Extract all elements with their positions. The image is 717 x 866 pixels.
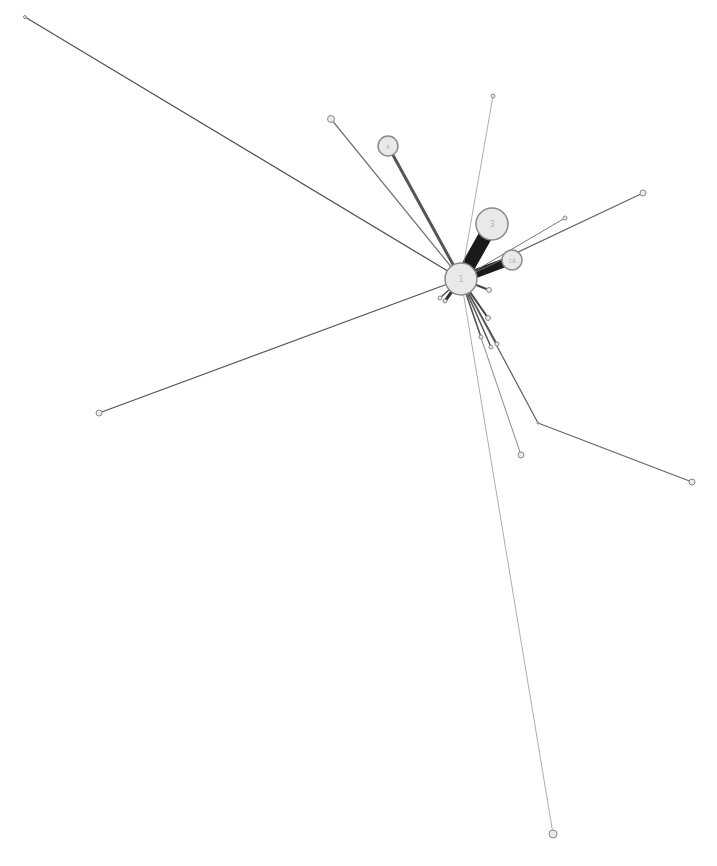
node-label: 4 [386, 143, 390, 150]
node-circle [328, 116, 335, 123]
node-3: 3 [476, 208, 508, 240]
node-circle [640, 190, 646, 196]
node-circle [518, 452, 524, 458]
node-leaf [438, 296, 442, 300]
node-leaf [479, 335, 483, 339]
node-leaf [443, 299, 447, 303]
node-4: 4 [378, 136, 398, 156]
node-leaf [563, 216, 567, 220]
node-leaf [495, 342, 499, 346]
node-18: 18 [502, 250, 522, 270]
edge-g-h [538, 423, 692, 482]
node-circle [689, 479, 695, 485]
node-leaf [549, 830, 557, 838]
node-leaf [518, 452, 524, 458]
node-circle [96, 410, 102, 416]
node-circle [24, 16, 27, 19]
node-label: 3 [489, 220, 494, 229]
node-leaf [328, 116, 335, 123]
node-circle [489, 345, 493, 349]
node-layer: 13418 [24, 16, 696, 839]
node-circle [443, 299, 447, 303]
node-leaf [537, 422, 539, 424]
node-label: 18 [508, 257, 516, 264]
node-leaf [487, 288, 492, 293]
node-label: 1 [458, 275, 463, 284]
node-circle [479, 335, 483, 339]
edge-n1-j [461, 279, 553, 834]
node-leaf [489, 345, 493, 349]
edge-layer [25, 17, 692, 834]
node-circle [438, 296, 442, 300]
node-circle [563, 216, 567, 220]
node-leaf [24, 16, 27, 19]
node-1: 1 [445, 263, 477, 295]
node-circle [549, 830, 557, 838]
network-graph: 13418 [0, 0, 717, 866]
node-circle [487, 288, 492, 293]
node-leaf [640, 190, 646, 196]
node-leaf [486, 316, 491, 321]
node-leaf [491, 94, 495, 98]
edge-n1-n4 [388, 146, 461, 279]
edge-n1-f [99, 279, 461, 413]
node-leaf [96, 410, 102, 416]
node-leaf [689, 479, 695, 485]
node-circle [495, 342, 499, 346]
node-circle [491, 94, 495, 98]
node-circle [486, 316, 491, 321]
node-circle [537, 422, 539, 424]
